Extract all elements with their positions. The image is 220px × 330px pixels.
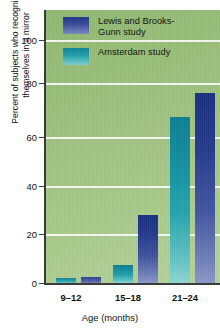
plot-area: Lewis and Brooks- Gunn study Amsterdam s… (45, 10, 220, 283)
legend-item-lewis: Lewis and Brooks- Gunn study (63, 16, 213, 38)
x-axis-line (44, 283, 220, 285)
y-tick-0 (39, 283, 44, 284)
y-tick-label-0: 0 (11, 278, 37, 289)
y-axis-line (44, 10, 46, 284)
y-tick-60 (39, 137, 44, 138)
bar-lewis-15-18 (138, 215, 158, 283)
y-tick-label-80: 80 (11, 78, 37, 89)
y-tick-label-60: 60 (11, 132, 37, 143)
y-tick-label-100: 100 (11, 35, 37, 46)
y-tick-40 (39, 186, 44, 187)
legend-swatch-lewis-icon (63, 17, 89, 34)
chart-legend: Lewis and Brooks- Gunn study Amsterdam s… (63, 16, 213, 74)
bar-amsterdam-15-18 (113, 265, 133, 283)
y-tick-label-20: 20 (11, 229, 37, 240)
bar-chart-figure: Percent of subjects who recognized thems… (0, 0, 220, 330)
x-axis-title: Age (months) (0, 312, 220, 323)
x-category-label-0: 9–12 (46, 292, 96, 303)
bar-lewis-21-24 (195, 93, 215, 283)
y-tick-80 (39, 83, 44, 84)
legend-label-lewis-line-1: Lewis and Brooks- (98, 16, 174, 27)
y-tick-20 (39, 234, 44, 235)
legend-label-amsterdam-line-1: Amsterdam study (98, 47, 170, 58)
legend-label-lewis-line-2: Gunn study (98, 27, 174, 38)
x-category-label-1: 15–18 (103, 292, 153, 303)
gridline-60 (45, 137, 220, 139)
y-tick-label-40: 40 (11, 181, 37, 192)
x-category-label-2: 21–24 (160, 292, 210, 303)
y-tick-100 (39, 40, 44, 41)
gridline-80 (45, 83, 220, 85)
gridline-40 (45, 186, 220, 188)
gridline-20 (45, 234, 220, 236)
legend-swatch-amsterdam-icon (63, 48, 89, 65)
legend-item-amsterdam: Amsterdam study (63, 47, 213, 65)
legend-label-amsterdam: Amsterdam study (98, 47, 170, 58)
bar-amsterdam-21-24 (170, 117, 190, 283)
legend-label-lewis: Lewis and Brooks- Gunn study (98, 16, 174, 38)
